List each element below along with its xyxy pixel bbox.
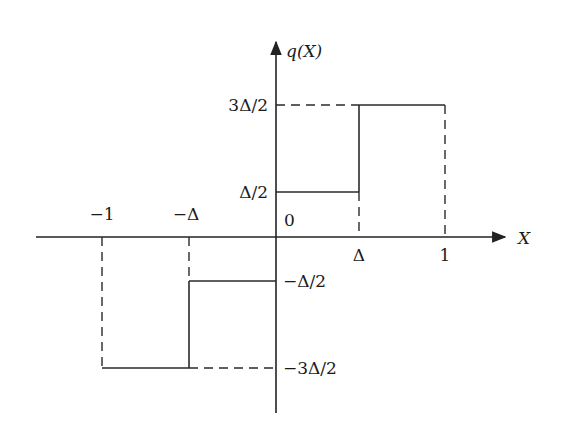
y-tick-half-delta: Δ/2 [239, 182, 268, 202]
y-tick-neg-half-delta: −Δ/2 [283, 271, 326, 291]
y-axis-label: q(X) [286, 41, 322, 61]
x-tick-neg-one: −1 [89, 204, 114, 224]
quantizer-diagram: q(X) X 0 −1 −Δ Δ 1 3Δ/2 Δ/2 −Δ/2 −3Δ/2 [0, 0, 568, 436]
x-tick-neg-delta: −Δ [173, 204, 200, 224]
x-axis-label: X [516, 228, 531, 248]
y-tick-neg-three-half-delta: −3Δ/2 [283, 358, 337, 378]
origin-label: 0 [284, 210, 295, 230]
y-tick-three-half-delta: 3Δ/2 [228, 95, 268, 115]
x-tick-delta: Δ [353, 245, 365, 265]
x-tick-one: 1 [440, 245, 451, 265]
